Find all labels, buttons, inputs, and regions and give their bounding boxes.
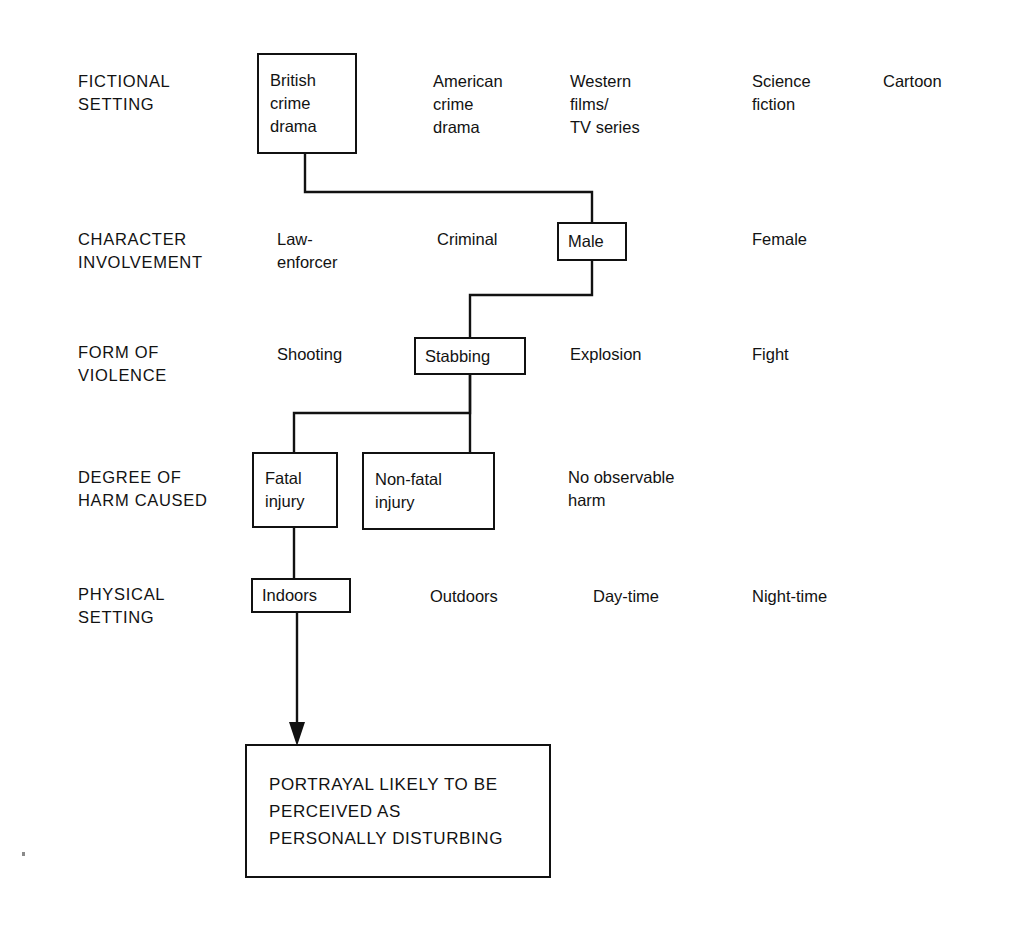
option-outdoors[interactable]: Outdoors [430, 585, 498, 608]
option-cartoon[interactable]: Cartoon [883, 70, 942, 93]
node-non-fatal-injury[interactable]: Non-fatal injury [362, 452, 495, 530]
scan-speck [22, 852, 25, 856]
node-fatal-injury[interactable]: Fatal injury [252, 452, 338, 528]
row-label-character-involvement: CHARACTER INVOLVEMENT [78, 228, 203, 274]
node-british-crime-drama[interactable]: British crime drama [257, 53, 357, 154]
node-fatal-injury-label: Fatal injury [254, 467, 304, 513]
row-label-degree-of-harm-caused: DEGREE OF HARM CAUSED [78, 466, 208, 512]
edge-stabbing-to-fatal [294, 375, 470, 452]
option-law-enforcer[interactable]: Law- enforcer [277, 228, 338, 274]
node-stabbing[interactable]: Stabbing [414, 337, 526, 375]
option-night-time[interactable]: Night-time [752, 585, 827, 608]
node-british-crime-drama-label: British crime drama [259, 69, 317, 138]
option-western-films-tv-series[interactable]: Western films/ TV series [570, 70, 640, 139]
arrowhead-icon [289, 722, 305, 746]
edge-setting-to-male [305, 154, 592, 222]
option-explosion[interactable]: Explosion [570, 343, 642, 366]
edge-male-to-stabbing [470, 261, 592, 337]
node-non-fatal-injury-label: Non-fatal injury [364, 468, 442, 514]
option-american-crime-drama[interactable]: American crime drama [433, 70, 503, 139]
flowchart-canvas: FICTIONAL SETTING CHARACTER INVOLVEMENT … [0, 0, 1010, 925]
option-no-observable-harm[interactable]: No observable harm [568, 466, 674, 512]
conclusion-box[interactable]: PORTRAYAL LIKELY TO BE PERCEIVED AS PERS… [245, 744, 551, 878]
option-science-fiction[interactable]: Science fiction [752, 70, 811, 116]
option-female[interactable]: Female [752, 228, 807, 251]
node-male-label: Male [559, 230, 604, 253]
row-label-physical-setting: PHYSICAL SETTING [78, 583, 165, 629]
row-label-form-of-violence: FORM OF VIOLENCE [78, 341, 167, 387]
option-fight[interactable]: Fight [752, 343, 789, 366]
node-indoors-label: Indoors [253, 584, 317, 607]
node-stabbing-label: Stabbing [416, 345, 490, 368]
node-indoors[interactable]: Indoors [251, 578, 351, 613]
option-day-time[interactable]: Day-time [593, 585, 659, 608]
option-criminal[interactable]: Criminal [437, 228, 498, 251]
row-label-fictional-setting: FICTIONAL SETTING [78, 70, 170, 116]
node-male[interactable]: Male [557, 222, 627, 261]
option-shooting[interactable]: Shooting [277, 343, 342, 366]
conclusion-text: PORTRAYAL LIKELY TO BE PERCEIVED AS PERS… [247, 771, 503, 852]
